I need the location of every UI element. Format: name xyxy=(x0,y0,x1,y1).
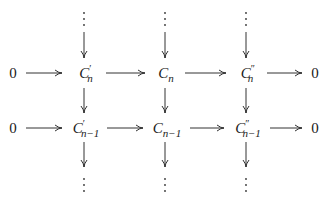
node-c-n1: Cn−1 xyxy=(153,121,181,136)
arrows-layer xyxy=(0,0,327,201)
node-sub: n xyxy=(248,72,254,84)
zero-left-row-n1: 0 xyxy=(9,121,17,136)
node-cprime-n1: C′n−1 xyxy=(73,121,100,136)
node-sub: n−1 xyxy=(81,127,99,139)
vertical-ellipsis-bottom xyxy=(83,178,247,192)
node-c-n: Cn xyxy=(158,66,174,81)
node-cdprime-n1: C″n−1 xyxy=(235,121,261,136)
node-sub: n−1 xyxy=(163,127,181,139)
node-base: C xyxy=(158,65,168,81)
zero-left-row-n: 0 xyxy=(9,66,17,81)
zero-right-row-n1: 0 xyxy=(311,121,319,136)
node-cdprime-n: C″n xyxy=(241,66,254,81)
node-sub: n−1 xyxy=(242,127,260,139)
commutative-diagram: 0 C′n Cn C″n 0 0 C′n−1 Cn−1 C″n−1 0 xyxy=(0,0,327,201)
vertical-ellipsis-top xyxy=(83,12,247,26)
node-cprime-n: C′n xyxy=(79,66,93,81)
zero-right-row-n: 0 xyxy=(311,66,319,81)
node-sub: n xyxy=(87,72,93,84)
node-sub: n xyxy=(168,72,174,84)
node-base: C xyxy=(153,120,163,136)
